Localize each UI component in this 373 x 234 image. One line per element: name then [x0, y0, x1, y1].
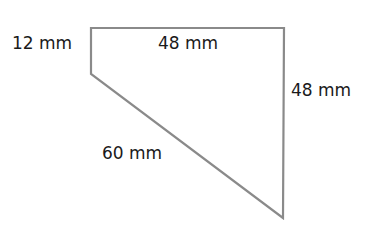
quadrilateral-outline — [91, 28, 284, 218]
right-side-label: 48 mm — [291, 82, 351, 99]
diagram-canvas: 12 mm 48 mm 48 mm 60 mm — [0, 0, 373, 234]
left-side-label: 12 mm — [12, 35, 72, 52]
diagonal-side-label: 60 mm — [102, 145, 162, 162]
top-side-label: 48 mm — [158, 35, 218, 52]
